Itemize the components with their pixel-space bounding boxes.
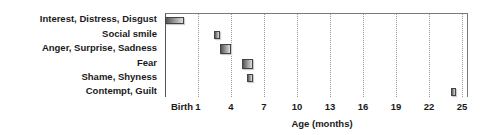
gridline	[198, 14, 199, 97]
category-label: Shame, Shyness	[81, 71, 157, 83]
range-bar	[247, 74, 253, 82]
range-bar	[242, 59, 253, 69]
range-bar	[214, 31, 220, 39]
category-label: Fear	[137, 57, 157, 69]
gridline	[330, 14, 331, 97]
x-tick-label: 1	[195, 101, 200, 112]
category-label: Anger, Surprise, Sadness	[42, 42, 157, 54]
x-tick-label: 22	[424, 101, 435, 112]
x-tick-label: 19	[391, 101, 402, 112]
x-tick-label: 13	[325, 101, 336, 112]
category-label: Interest, Distress, Disgust	[40, 13, 157, 25]
gridline	[462, 14, 463, 97]
range-bar	[220, 44, 231, 54]
gridline	[396, 14, 397, 97]
x-tick-label: 10	[292, 101, 303, 112]
gridline	[297, 14, 298, 97]
gridline	[264, 14, 265, 97]
gridline	[231, 14, 232, 97]
x-tick-label: 25	[457, 101, 468, 112]
gridline	[363, 14, 364, 97]
plot-area	[165, 13, 468, 97]
x-tick-label: 7	[261, 101, 266, 112]
category-label: Social smile	[102, 28, 157, 40]
x-tick-label: 16	[358, 101, 369, 112]
x-tick-label: Birth	[171, 101, 193, 112]
category-label: Contempt, Guilt	[86, 85, 157, 97]
range-bar	[165, 17, 185, 24]
range-bar	[451, 88, 457, 96]
gridline	[429, 14, 430, 97]
x-tick-label: 4	[228, 101, 233, 112]
